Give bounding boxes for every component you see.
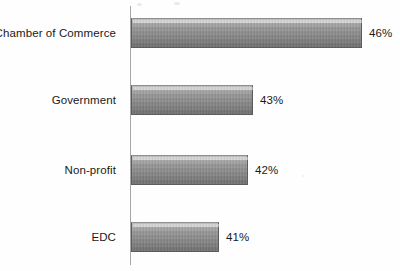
scan-artifact-icon [137,3,142,6]
bar-government [131,85,253,115]
bar-category-label: Non-profit [65,164,117,176]
bar-chamber-of-commerce [131,18,362,48]
bar-value-label: 41% [226,231,249,243]
bar-value-label: 43% [260,94,283,106]
bar-highlight [133,87,253,90]
bar-non-profit [131,155,248,185]
bar-value-label: 46% [369,27,392,39]
bar-chart: Chamber of Commerce 46% Government 43% N… [0,0,400,271]
bar-highlight [133,20,362,23]
bar-highlight [133,224,219,227]
bar-category-label: Government [52,94,116,106]
bar-row: Chamber of Commerce 46% [0,18,400,48]
bar-value-label: 42% [255,164,278,176]
scan-artifact-icon [174,2,180,5]
bar-category-label: EDC [91,231,116,243]
bar-edc [131,222,219,252]
bar-highlight [133,157,248,160]
bar-row: Non-profit 42% [0,155,400,185]
bar-row: EDC 41% [0,222,400,252]
bar-category-label: Chamber of Commerce [0,27,116,39]
bar-row: Government 43% [0,85,400,115]
